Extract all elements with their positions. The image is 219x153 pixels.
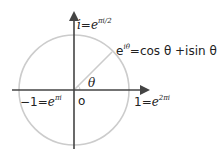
left-label-eq: = bbox=[38, 95, 48, 109]
euler-formula-label: eiθ=cos θ +isin θ bbox=[116, 44, 217, 57]
right-label-base: e bbox=[152, 95, 159, 109]
top-label-exp: πi/2 bbox=[98, 17, 112, 25]
origin-label: o bbox=[78, 95, 85, 107]
right-label-lhs: 1 bbox=[134, 95, 142, 109]
left-label-exp: πi bbox=[55, 94, 62, 102]
right-label-eq: = bbox=[142, 95, 152, 109]
right-label: 1=e2πi bbox=[134, 95, 170, 108]
left-label: −1=eπi bbox=[20, 95, 62, 108]
left-label-base: e bbox=[48, 95, 55, 109]
right-label-exp: 2πi bbox=[159, 94, 170, 102]
left-label-lhs: −1 bbox=[20, 95, 38, 109]
top-label: i=eπi/2 bbox=[77, 18, 112, 31]
top-label-eq: = bbox=[81, 18, 91, 32]
angle-label: θ bbox=[88, 77, 95, 89]
euler-rhs: =cos θ +isin θ bbox=[130, 44, 217, 58]
top-label-base: e bbox=[91, 18, 98, 32]
x-axis-arrow-icon bbox=[140, 85, 150, 95]
